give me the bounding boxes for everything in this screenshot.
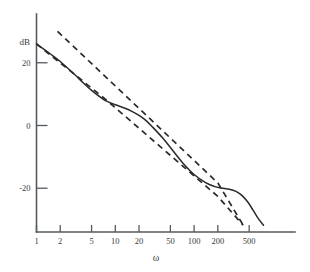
x-tick-label: 50 <box>166 236 175 246</box>
x-axis-ticks <box>37 225 250 232</box>
y-axis-tick-labels: 200-20 <box>19 58 30 193</box>
x-tick-label: 20 <box>135 236 144 246</box>
y-tick-label: 20 <box>22 58 31 68</box>
y-tick-label: -20 <box>19 183 30 193</box>
y-axis-title: dB <box>19 37 30 47</box>
chart-series-group <box>37 31 264 225</box>
x-tick-label: 100 <box>188 236 201 246</box>
x-tick-label: 2 <box>58 236 62 246</box>
x-tick-label: 500 <box>243 236 256 246</box>
y-tick-label: 0 <box>26 121 30 131</box>
chart-canvas: 125102050100200500 200-20 dB ω <box>0 0 310 272</box>
y-axis-ticks <box>37 63 48 188</box>
axes-group <box>37 14 296 232</box>
x-axis-title: ω <box>153 252 160 263</box>
x-axis-tick-labels: 125102050100200500 <box>34 236 255 246</box>
x-tick-label: 1 <box>34 236 38 246</box>
x-tick-label: 5 <box>89 236 93 246</box>
bode-magnitude-chart: 125102050100200500 200-20 dB ω <box>0 0 310 272</box>
x-tick-label: 10 <box>111 236 120 246</box>
series-asymptote-upper <box>58 31 244 225</box>
x-tick-label: 200 <box>211 236 224 246</box>
series-asymptote-lower <box>37 44 244 225</box>
